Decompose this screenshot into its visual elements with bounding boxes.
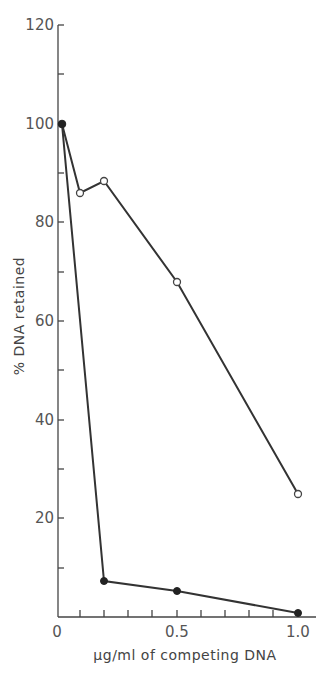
x-axis-title: µg/ml of competing DNA (93, 647, 276, 663)
series-filled-markers (58, 120, 301, 616)
chart-canvas: 120 100 80 60 40 20 0 0.5 1.0 µg/ml of c… (0, 0, 333, 673)
filled-point (101, 578, 108, 585)
open-point (174, 279, 181, 286)
x-tick-0: 0 (52, 623, 62, 641)
open-point (101, 178, 108, 185)
y-tick-40: 40 (35, 411, 54, 429)
filled-point (295, 610, 302, 617)
x-tick-0-5: 0.5 (165, 623, 189, 641)
y-tick-100: 100 (25, 115, 54, 133)
y-tick-20: 20 (35, 509, 54, 527)
y-tick-120: 120 (25, 16, 54, 34)
x-axis (58, 610, 316, 617)
filled-point (174, 588, 181, 595)
y-axis-title: % DNA retained (11, 257, 27, 375)
filled-point (58, 120, 66, 128)
series-open-markers (77, 178, 302, 498)
x-tick-1-0: 1.0 (286, 623, 310, 641)
open-point (295, 491, 302, 498)
y-axis (58, 25, 64, 617)
series-filled-line (62, 124, 298, 613)
open-point (77, 190, 84, 197)
y-tick-60: 60 (35, 312, 54, 330)
y-tick-80: 80 (35, 213, 54, 231)
series-open-line (62, 124, 298, 494)
